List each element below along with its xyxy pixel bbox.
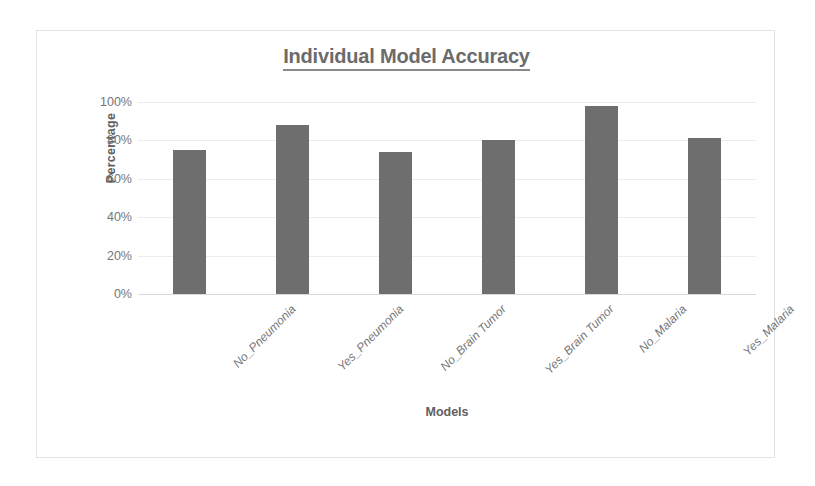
x-axis-title: Models	[138, 405, 756, 419]
x-tick-label: Yes_Pneumonia	[334, 302, 406, 374]
gridline	[138, 140, 756, 141]
x-tick-label: No_Pneumonia	[230, 302, 298, 370]
bar-no-pneumonia	[173, 150, 206, 294]
y-tick-label: 60%	[72, 172, 132, 186]
gridline	[138, 217, 756, 218]
chart-title: Individual Model Accuracy	[37, 45, 776, 68]
bar-no-malaria	[585, 106, 618, 294]
x-tick-label: Yes_Malaria	[740, 302, 797, 359]
bar-yes-malaria	[688, 138, 721, 294]
gridline	[138, 102, 756, 103]
bar-yes-brain-tumor	[482, 140, 515, 294]
y-axis-tick-labels: 100% 80% 60% 40% 20% 0%	[68, 102, 132, 294]
bar-yes-pneumonia	[276, 125, 309, 294]
chart-title-text: Individual Model Accuracy	[283, 45, 530, 71]
plot-area	[138, 102, 756, 294]
y-tick-label: 40%	[72, 210, 132, 224]
gridline	[138, 179, 756, 180]
y-tick-label: 20%	[72, 249, 132, 263]
y-tick-label: 0%	[72, 287, 132, 301]
gridline	[138, 256, 756, 257]
x-axis-category-labels: No_PneumoniaYes_PneumoniaNo_Brain TumorY…	[138, 294, 756, 404]
x-tick-label: Yes_Brain Tumor	[541, 302, 616, 377]
bar-no-brain-tumor	[379, 152, 412, 294]
y-tick-label: 100%	[72, 95, 132, 109]
x-tick-label: No_Malaria	[635, 302, 688, 355]
chart-frame: Individual Model Accuracy Percentage 100…	[36, 30, 775, 458]
y-tick-label: 80%	[72, 133, 132, 147]
x-tick-label: No_Brain Tumor	[437, 302, 509, 374]
